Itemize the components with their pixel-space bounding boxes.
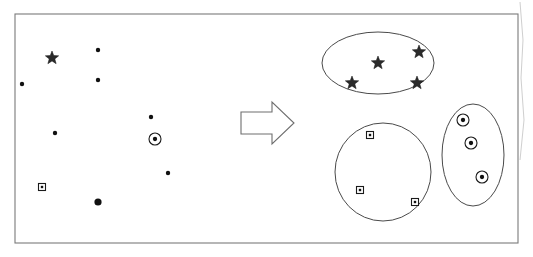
point-dot: [96, 48, 100, 52]
circle-cluster: [442, 104, 504, 206]
point-star: [371, 56, 384, 69]
scan-edge-artifact: [520, 2, 524, 160]
point-squared-core: [41, 186, 43, 188]
scan-artifact-layer: [520, 2, 524, 160]
point-squared-core: [369, 134, 371, 136]
point-dot: [94, 198, 101, 205]
point-dot: [149, 115, 153, 119]
point-circled-core: [461, 118, 465, 122]
right-arrow-icon: [241, 102, 294, 144]
point-circled-core: [469, 141, 473, 145]
point-star: [410, 76, 423, 89]
point-circled-core: [153, 137, 157, 141]
point-dot: [20, 82, 24, 86]
unclustered-point-layer: [20, 48, 170, 206]
point-star: [412, 45, 425, 58]
point-dot: [96, 78, 100, 82]
point-dot: [166, 171, 170, 175]
square-cluster-boundary: [335, 123, 431, 221]
cluster-layer: [322, 32, 504, 221]
point-star: [45, 51, 58, 64]
point-star: [345, 76, 358, 89]
circle-cluster-boundary: [442, 104, 504, 206]
star-cluster: [322, 32, 434, 94]
point-squared-core: [414, 201, 416, 203]
clustering-diagram: [0, 0, 533, 257]
square-cluster: [335, 123, 431, 221]
point-circled-core: [480, 175, 484, 179]
point-dot: [53, 131, 57, 135]
point-squared-core: [359, 189, 361, 191]
